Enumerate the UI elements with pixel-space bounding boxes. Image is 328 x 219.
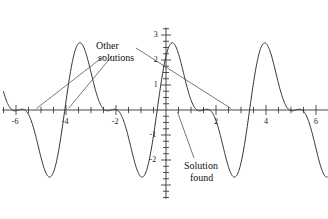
axes-group [2,28,328,199]
annotation-other-solutions: Other solutions [96,40,134,63]
function-plot-svg [0,0,328,219]
y-tick-label: 3 [154,31,158,39]
leader-other-solutions-right [136,48,231,109]
annotation-other-solutions-line1: Other [96,40,134,52]
y-tick-label: 1 [154,81,158,89]
x-tick-label: -4 [62,118,69,126]
y-tick-label: 2 [154,56,158,64]
leader-other-solutions-left-b [69,56,113,109]
annotation-solution-found: Solution found [184,160,218,183]
x-tick-label: 4 [264,118,268,126]
annotation-solution-found-line2: found [184,172,218,184]
figure-canvas: -6-4-2246-2-1123 Other solutions Solutio… [0,0,328,219]
x-tick-label: 6 [314,118,318,126]
leader-solution-found [178,112,195,158]
annotation-other-solutions-line2: solutions [96,52,134,64]
x-tick-label: -6 [12,118,19,126]
x-tick-label: 2 [214,118,218,126]
x-tick-label: -2 [112,118,119,126]
y-tick-label: -2 [150,156,157,164]
annotation-solution-found-line1: Solution [184,160,218,172]
y-tick-label: -1 [150,131,157,139]
